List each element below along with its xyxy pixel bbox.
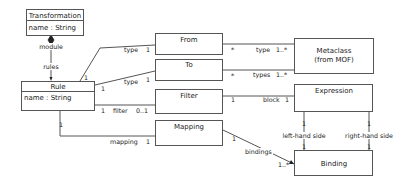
- class-binding[interactable]: Binding: [295, 151, 373, 176]
- class-rule[interactable]: Rule name : String: [22, 82, 95, 111]
- mult-label: 1..*: [276, 46, 287, 53]
- class-to[interactable]: To: [156, 60, 223, 81]
- mult-label: *: [231, 72, 234, 79]
- role-label-rules: rules: [43, 63, 58, 70]
- mult-label: 1: [146, 76, 150, 83]
- class-name: Expression: [315, 87, 353, 95]
- arrowhead-icon: [50, 77, 53, 81]
- class-name: Filter: [180, 92, 197, 100]
- role-label-module: module: [39, 43, 63, 50]
- class-name-line2: (from MOF): [314, 56, 354, 64]
- class-name: To: [184, 61, 192, 69]
- mult-label: 1: [84, 74, 88, 81]
- mult-label: 1: [285, 96, 289, 103]
- mult-label: 1..*: [278, 161, 289, 168]
- mult-label: 1: [59, 121, 63, 128]
- role-label: bindings: [245, 148, 272, 156]
- mult-label: 1: [302, 143, 306, 150]
- role-label: type: [124, 78, 138, 86]
- mult-label: 1: [367, 143, 371, 150]
- assoc-rule-mapping: [60, 111, 155, 136]
- class-attribute: name : String: [24, 94, 72, 102]
- uml-class-diagram: Transformation name : String Rule name :…: [0, 0, 414, 187]
- mult-label: 1: [146, 138, 150, 145]
- mult-label: 1: [101, 107, 105, 114]
- mult-label: 1: [302, 120, 306, 127]
- class-filter[interactable]: Filter: [156, 90, 223, 114]
- role-label: type: [124, 46, 138, 54]
- mult-label: 0..1: [136, 107, 148, 114]
- class-name: From: [180, 36, 198, 44]
- class-name: Rule: [50, 83, 65, 91]
- mult-label: 1: [146, 46, 150, 53]
- class-name: Mapping: [174, 123, 204, 131]
- mult-label: *: [231, 46, 234, 53]
- class-transformation[interactable]: Transformation name : String: [27, 10, 84, 36]
- mult-label: 1: [232, 135, 236, 142]
- class-mapping[interactable]: Mapping: [156, 121, 223, 146]
- mult-label: 1..*: [276, 71, 287, 78]
- role-label: types: [253, 71, 270, 79]
- class-metaclass[interactable]: Metaclass (from MOF): [295, 39, 374, 74]
- class-expression[interactable]: Expression: [295, 85, 373, 112]
- class-from[interactable]: From: [156, 34, 223, 55]
- class-name-line1: Metaclass: [317, 47, 352, 55]
- class-name: Binding: [321, 160, 347, 168]
- class-name: Transformation: [28, 12, 82, 20]
- role-label: filter: [113, 107, 128, 114]
- role-label: right-hand side: [345, 132, 393, 140]
- mult-label: 1: [231, 96, 235, 103]
- role-label: block: [263, 96, 280, 103]
- mult-label: 1: [367, 120, 371, 127]
- role-label: type: [256, 46, 270, 54]
- mult-label: 1: [101, 85, 105, 92]
- role-label: mapping: [110, 138, 138, 146]
- class-attribute: name : String: [29, 24, 77, 32]
- role-label: left-hand side: [282, 132, 325, 139]
- assoc-rule-from: [80, 45, 155, 81]
